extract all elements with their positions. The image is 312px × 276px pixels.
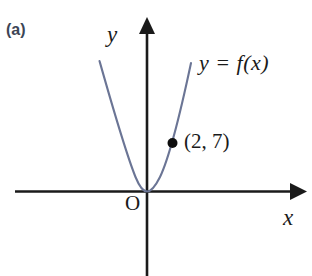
point-coordinates-label: (2, 7) xyxy=(184,131,230,152)
x-axis-arrowhead xyxy=(290,183,307,200)
x-axis-label: x xyxy=(283,206,293,229)
part-label: (a) xyxy=(6,22,26,38)
graph-canvas xyxy=(0,0,312,276)
figure-panel: (a) y x y = f(x) (2, 7) O xyxy=(0,0,312,276)
origin-label: O xyxy=(125,193,140,214)
y-axis-arrowhead xyxy=(139,17,155,34)
marked-point-dot xyxy=(168,138,178,148)
function-curve xyxy=(100,61,192,192)
curve-equation-label: y = f(x) xyxy=(199,52,269,74)
y-axis-label: y xyxy=(107,23,117,46)
